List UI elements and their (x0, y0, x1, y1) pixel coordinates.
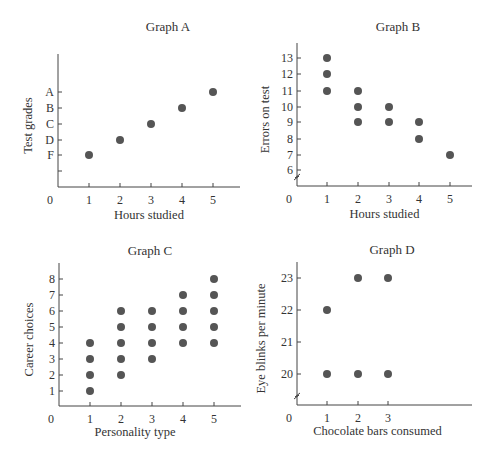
origin-label: 0 (48, 412, 54, 426)
y-tick-label: 2 (49, 368, 55, 382)
data-point (210, 291, 218, 299)
x-axis-label: Hours studied (114, 208, 185, 222)
y-tick-label: 8 (287, 132, 293, 146)
y-axis-label: Errors on test (258, 85, 272, 153)
data-point (86, 339, 94, 347)
x-tick-label: 4 (179, 193, 185, 207)
y-tick-label: 9 (287, 115, 293, 129)
data-point (210, 275, 218, 283)
y-tick-label: 23 (281, 271, 293, 285)
scatter-figure: Graph A012345FDCBAHours studiedTest grad… (0, 0, 493, 457)
data-point (210, 307, 218, 315)
data-point (384, 274, 392, 282)
data-point (179, 291, 187, 299)
data-point (148, 355, 156, 363)
data-point (117, 307, 125, 315)
y-tick-label: 1 (49, 384, 55, 398)
data-point (323, 54, 331, 62)
data-point (323, 87, 331, 95)
data-point (415, 135, 423, 143)
data-point (354, 274, 362, 282)
data-point (117, 339, 125, 347)
data-point (179, 339, 187, 347)
axes (297, 262, 472, 405)
graph-title: Graph D (369, 242, 414, 257)
origin-label: 0 (286, 411, 292, 425)
y-tick-label: 21 (281, 335, 293, 349)
data-point (85, 151, 93, 159)
data-point (148, 307, 156, 315)
y-axis-label: Career choices (22, 302, 36, 376)
data-point (117, 355, 125, 363)
graph-title: Graph B (376, 19, 421, 34)
data-point (179, 323, 187, 331)
x-tick-label: 5 (211, 412, 217, 426)
y-tick-label: 7 (287, 148, 293, 162)
graph-d: Graph D012320212223Chocolate bars consum… (254, 242, 472, 438)
x-tick-label: 4 (416, 192, 422, 206)
graph-c: Graph C01234512345678Personality typeCar… (22, 243, 241, 439)
y-tick-label: 6 (287, 163, 293, 177)
y-tick-label: 20 (281, 367, 293, 381)
data-point (323, 70, 331, 78)
data-point (86, 387, 94, 395)
data-point (210, 323, 218, 331)
data-point (179, 307, 187, 315)
data-point (354, 118, 362, 126)
graph-a: Graph A012345FDCBAHours studiedTest grad… (21, 19, 240, 222)
x-tick-label: 1 (87, 412, 93, 426)
data-point (147, 120, 155, 128)
data-point (209, 88, 217, 96)
data-point (178, 104, 186, 112)
axes (59, 263, 241, 406)
y-tick-label: 6 (49, 304, 55, 318)
graph-title: Graph A (146, 19, 191, 34)
data-point (354, 103, 362, 111)
x-tick-label: 5 (210, 193, 216, 207)
x-tick-label: 1 (324, 192, 330, 206)
data-point (86, 371, 94, 379)
x-tick-label: 3 (385, 411, 391, 425)
y-tick-label: C (46, 117, 54, 131)
data-point (385, 118, 393, 126)
data-point (384, 370, 392, 378)
data-point (117, 371, 125, 379)
x-tick-label: 3 (148, 193, 154, 207)
x-tick-label: 3 (386, 192, 392, 206)
y-tick-label: 3 (49, 352, 55, 366)
y-tick-label: F (47, 148, 54, 162)
y-axis-label: Eye blinks per minute (254, 283, 268, 393)
x-tick-label: 2 (117, 193, 123, 207)
y-tick-label: 11 (281, 84, 293, 98)
y-tick-label: D (45, 133, 54, 147)
data-point (354, 87, 362, 95)
y-tick-label: 13 (281, 51, 293, 65)
data-point (148, 323, 156, 331)
axes (297, 43, 472, 186)
data-point (415, 118, 423, 126)
data-point (354, 370, 362, 378)
data-point (446, 151, 454, 159)
axes (58, 54, 240, 187)
data-point (210, 339, 218, 347)
x-axis-label: Chocolate bars consumed (313, 424, 442, 438)
origin-label: 0 (47, 193, 53, 207)
x-tick-label: 5 (447, 192, 453, 206)
y-tick-label: 12 (281, 67, 293, 81)
x-tick-label: 1 (324, 411, 330, 425)
data-point (323, 306, 331, 314)
origin-label: 0 (286, 192, 292, 206)
graph-title: Graph C (128, 243, 172, 258)
x-tick-label: 1 (86, 193, 92, 207)
graph-b: Graph B012345678910111213Hours studiedEr… (258, 19, 472, 221)
y-tick-label: B (46, 101, 54, 115)
data-point (117, 323, 125, 331)
x-tick-label: 2 (355, 192, 361, 206)
y-tick-label: 5 (49, 320, 55, 334)
x-tick-label: 4 (180, 412, 186, 426)
y-axis-label: Test grades (21, 97, 35, 154)
y-tick-label: 22 (281, 303, 293, 317)
data-point (86, 355, 94, 363)
data-point (148, 339, 156, 347)
y-tick-label: 10 (281, 100, 293, 114)
